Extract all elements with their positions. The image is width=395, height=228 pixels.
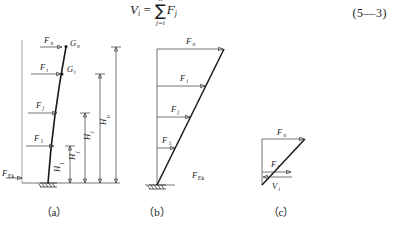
fig-b-caption: （b） [143,206,171,218]
fig-a-label-Hj-sub: j [74,151,80,154]
fig-a-label-Gn: G [70,38,76,48]
fig-c-force-arrow-Fi [262,170,291,174]
figure-c: F n F i V i （c） [262,127,305,218]
fig-a-label-Hi: H [82,133,92,141]
fig-c-label-Fn: F [276,127,283,137]
fig-b-force-arrow-Fn [157,47,223,51]
fig-a-label-Hn: H [98,118,108,126]
fig-a-label-Gn-sub: n [77,43,80,49]
fig-c-label-Fn-sub: n [283,132,286,138]
fig-a-label-Gi: G [67,64,73,74]
fig-c-caption: （c） [268,206,295,218]
fig-b-label-Fj-sub: j [176,109,179,115]
fig-b-force-arrow-F1 [157,146,175,150]
figure-b: F n F i F j F 1 F [143,36,224,218]
fig-c-shear-arrow-Vi [263,175,292,179]
fig-a-force-arrow-F1 [26,144,54,148]
figure-page: Vi = n ∑ j=i Fj (5—3) [0,0,395,228]
fig-a-force-arrow-Fj [28,111,57,115]
fig-a-label-F1-sub: 1 [40,138,43,144]
fig-a-label-Fn-sub: n [50,40,53,46]
fig-a-dimension-Hn [111,47,121,183]
fig-c-inclined-edge [262,139,305,185]
fig-b-label-Fi-sub: i [186,78,188,84]
fig-a-label-Hi-sub: i [89,131,95,133]
figure-group: F n G n F i G i F j [0,0,395,228]
fig-a-mass-dot-Gn [65,45,68,48]
fig-b-label-Fn: F [185,36,192,46]
fig-c-label-Vi-sub: i [278,186,280,192]
fig-a-dimension-Hj [80,113,90,183]
fig-b-label-FEk-sub: Ek [198,175,204,181]
fig-a-caption: （a） [41,206,68,218]
fig-a-label-Hn-sub: n [105,115,111,118]
fig-a-dimension-Hi [95,74,105,183]
fig-b-force-arrow-Fj [157,115,190,119]
fig-a-label-Fi: F [39,62,46,72]
fig-a-label-F1: F [33,133,40,143]
fig-a-label-Fj-sub: j [41,105,44,111]
fig-b-label-Fi: F [179,73,186,83]
fig-a-label-Fi-sub: i [46,67,48,73]
fig-b-label-F1: F [161,135,168,145]
fig-c-label-Fi: F [270,159,277,169]
fig-a-mass-dot-Gi [61,73,64,76]
fig-a-label-H1: H [52,165,62,173]
figure-a: F n G n F i G i F j [1,35,121,218]
fig-a-label-Fn: F [43,35,50,45]
fig-b-label-FEk: F [191,170,198,180]
fig-a-label-H1-sub: 1 [59,162,65,165]
fig-a-label-FEk: F [1,168,8,178]
fig-a-label-FEk-sub: Ek [8,173,14,179]
fig-a-label-Hj: H [67,153,77,161]
fig-a-label-Gi-sub: i [74,69,76,75]
fig-b-fixed-support-icon [148,185,167,189]
fig-b-force-arrow-Fi [157,84,205,88]
fig-b-label-F1-sub: 1 [168,140,171,146]
fig-a-label-Fj: F [35,100,42,110]
fig-b-label-Fn-sub: n [192,41,195,47]
fig-b-label-Fj: F [170,104,177,114]
